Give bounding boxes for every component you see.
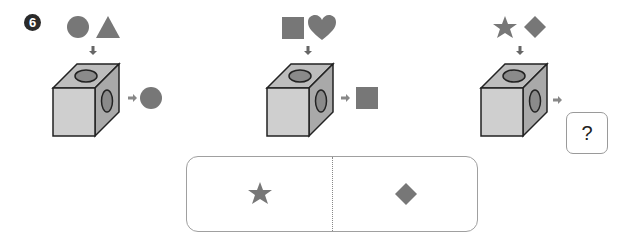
square-icon	[356, 87, 378, 109]
star-icon	[493, 16, 517, 38]
answer-choice-star[interactable]	[187, 157, 332, 231]
diamond-icon	[524, 16, 546, 38]
diamond-icon	[332, 157, 477, 231]
answer-choices-box	[186, 156, 478, 232]
arrow-down-icon	[304, 46, 312, 55]
arrow-down-icon	[516, 46, 524, 55]
square-icon	[282, 17, 304, 39]
circle-icon	[140, 87, 162, 109]
arrow-right-icon	[341, 94, 350, 102]
star-icon	[187, 157, 332, 231]
unknown-output-box: ?	[566, 112, 608, 154]
cube-machine-icon	[481, 64, 547, 136]
triangle-icon	[96, 16, 120, 38]
arrow-down-icon	[89, 46, 97, 55]
arrow-right-icon	[553, 96, 562, 104]
cube-machine-icon	[53, 64, 119, 136]
heart-icon	[308, 15, 336, 40]
arrow-right-icon	[128, 94, 137, 102]
circle-icon	[67, 16, 89, 38]
cube-machine-icon	[267, 64, 333, 136]
answer-choice-diamond[interactable]	[332, 157, 477, 231]
